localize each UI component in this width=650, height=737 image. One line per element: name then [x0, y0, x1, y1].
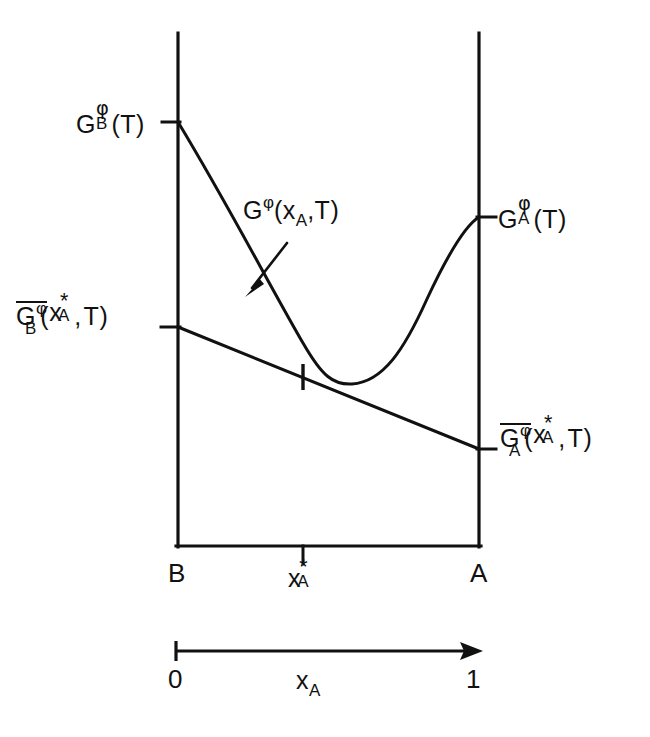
endpoint-label-b: B	[168, 560, 186, 586]
g-a-pure-argument: (T)	[533, 205, 566, 233]
gibbs-curve-x: x	[283, 196, 296, 224]
g-a-partial-comma: ,	[558, 424, 565, 452]
g-a-pure-subscript: A	[518, 210, 530, 227]
scale-variable-subscript: A	[309, 682, 320, 699]
g-b-partial-close-paren: )	[99, 302, 108, 330]
g-a-pure-base: G	[498, 205, 518, 233]
g-b-partial-comma: ,	[74, 302, 81, 330]
label-x-a-star: x*A	[288, 566, 308, 595]
g-a-partial-open-paren: (	[524, 424, 533, 452]
endpoint-label-a: A	[470, 560, 488, 586]
g-a-partial-subscript: A	[509, 442, 520, 459]
g-b-partial-open-paren: (	[40, 302, 49, 330]
g-b-partial-temperature: T	[84, 302, 100, 330]
g-b-pure-argument: (T)	[111, 110, 144, 138]
g-a-partial-x-subscript: A	[542, 429, 554, 446]
gibbs-curve-base: G	[243, 196, 263, 224]
label-gibbs-curve: Gφ(xA,T)	[243, 198, 339, 223]
x-a-star-subscript: A	[297, 573, 309, 590]
curve-callout-arrow-head	[245, 278, 264, 297]
gibbs-curve-temperature: T	[315, 196, 331, 224]
gibbs-curve-x-subscript: A	[296, 212, 307, 229]
g-b-pure-subscript: B	[96, 115, 108, 132]
label-g-b-partial: GφB(x*A,T)	[16, 300, 117, 329]
gibbs-curve-close-paren: )	[330, 196, 339, 224]
label-g-b-pure: GφB(T)	[76, 108, 145, 137]
label-g-a-partial: GφA(x*A,T)	[500, 422, 601, 451]
gibbs-energy-diagram: GφB(T) GφA(T) Gφ(xA,T) GφB(x*A,T) GφA(x*…	[0, 0, 650, 737]
gibbs-curve-superscript: φ	[263, 194, 274, 211]
gibbs-curve-comma: ,	[307, 196, 314, 224]
g-b-pure-base: G	[76, 110, 96, 138]
gibbs-curve-open-paren: (	[274, 196, 283, 224]
g-b-partial-x-subscript: A	[58, 307, 70, 324]
g-b-partial-subscript: B	[25, 320, 36, 337]
scale-variable-label: xA	[296, 668, 320, 693]
scale-variable-base: x	[296, 666, 309, 694]
scale-label-max: 1	[466, 666, 481, 692]
tangent-line	[178, 327, 479, 449]
g-a-partial-temperature: T	[568, 424, 584, 452]
g-a-partial-close-paren: )	[583, 424, 592, 452]
scale-label-min: 0	[168, 666, 183, 692]
label-g-a-pure: GφA(T)	[498, 203, 567, 232]
